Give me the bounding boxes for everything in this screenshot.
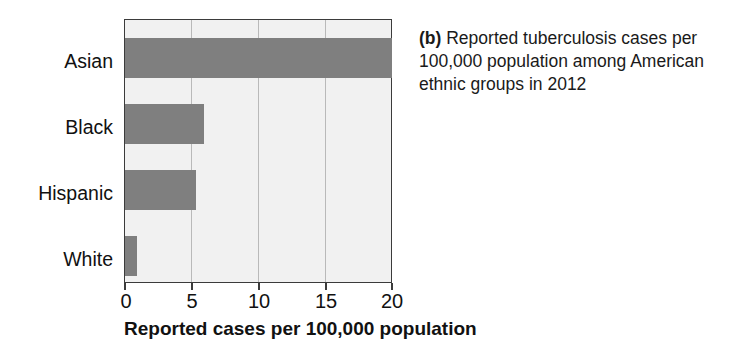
plot-area	[124, 19, 392, 283]
bar-black	[125, 104, 204, 144]
x-tick-mark-20	[391, 283, 393, 290]
x-tick-mark-0	[124, 283, 126, 290]
x-tick-mark-10	[258, 283, 260, 290]
y-axis-label-black: Black	[0, 118, 113, 138]
figure-panel-b: Asian Black Hispanic White 0 5 10 15 20 …	[0, 0, 736, 347]
x-tick-label-15: 15	[315, 291, 337, 311]
caption-marker: (b)	[419, 28, 441, 48]
bar-white	[125, 236, 137, 276]
x-tick-label-0: 0	[120, 291, 131, 311]
bar-hispanic	[125, 170, 196, 210]
x-tick-label-20: 20	[381, 291, 403, 311]
y-axis-label-hispanic: Hispanic	[0, 184, 113, 204]
x-axis-title: Reported cases per 100,000 population	[124, 318, 392, 340]
y-axis-label-asian: Asian	[0, 52, 113, 72]
figure-caption: (b) Reported tuberculosis cases per 100,…	[419, 27, 719, 96]
caption-text: Reported tuberculosis cases per 100,000 …	[419, 28, 704, 94]
x-tick-label-10: 10	[248, 291, 270, 311]
y-axis-label-white: White	[0, 250, 113, 270]
bar-asian	[125, 38, 392, 78]
x-tick-label-5: 5	[186, 291, 197, 311]
x-tick-mark-5	[191, 283, 193, 290]
y-axis-category-labels: Asian Black Hispanic White	[0, 19, 113, 283]
x-tick-mark-15	[325, 283, 327, 290]
